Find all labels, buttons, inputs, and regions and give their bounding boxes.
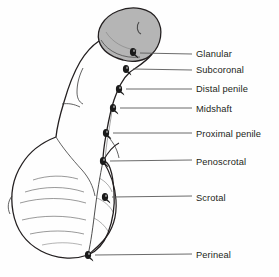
scrotum-rugae-2: [25, 188, 84, 193]
leader-line-scrotal: [112, 196, 192, 197]
scrotum-rugae-5: [30, 231, 84, 234]
meatus-marker-distal-penile[interactable]: [116, 85, 124, 96]
scrotum-left-lobe-crease: [56, 137, 95, 196]
meatus-marker-midshaft[interactable]: [110, 104, 118, 115]
meatus-marker-highlight: [133, 50, 135, 53]
scrotum-right-rugae-3: [94, 218, 108, 231]
scrotum-rugae-3: [20, 199, 86, 204]
scrotum-rugae-4: [22, 216, 86, 220]
label-perineal: Perineal: [196, 251, 231, 260]
meatus-marker-highlight: [103, 159, 105, 162]
label-proximal-penile: Proximal penile: [196, 130, 261, 139]
meatal-markers-group: [85, 48, 138, 262]
meatus-marker-highlight: [119, 87, 121, 90]
shaft-right-lower-flare: [106, 135, 119, 158]
scrotum-rugae-6: [42, 243, 82, 245]
meatus-marker-tail: [114, 110, 118, 114]
scrotum-outline: [12, 137, 114, 258]
label-scrotal: Scrotal: [196, 194, 226, 203]
meatus-marker-tail: [120, 91, 124, 95]
shaft-left-fold-tail: [62, 104, 80, 107]
diagram-figure: GlanularSubcoronalDistal penileMidshaftP…: [0, 0, 279, 277]
meatus-marker-tail: [106, 199, 110, 203]
meatus-marker-highlight: [113, 106, 115, 109]
meatus-marker-tail: [89, 257, 93, 261]
scrotum-rugae-1: [33, 176, 78, 180]
leader-line-perineal: [95, 254, 192, 255]
leader-lines-group: [95, 53, 192, 255]
label-penoscrotal: Penoscrotal: [196, 158, 246, 167]
label-subcoronal: Subcoronal: [196, 66, 244, 75]
meatus-marker-highlight: [126, 67, 128, 70]
label-midshaft: Midshaft: [196, 105, 232, 114]
meatus-marker-highlight: [88, 253, 90, 256]
scrotum-group: [8, 137, 116, 258]
scrotum-median-raphe: [88, 161, 103, 255]
meatus-marker-proximal-penile[interactable]: [103, 129, 111, 140]
shaft-left-outline: [56, 41, 99, 137]
leader-line-subcoronal: [133, 69, 192, 70]
meatus-marker-highlight: [105, 195, 107, 198]
label-distal-penile: Distal penile: [196, 85, 248, 94]
scrotum-right-rugae-1: [99, 178, 112, 192]
leader-line-penoscrotal: [110, 160, 192, 161]
meatus-marker-scrotal[interactable]: [102, 193, 110, 204]
label-glanular: Glanular: [196, 50, 232, 59]
meatus-marker-highlight: [106, 131, 108, 134]
shaft-left-fold: [77, 68, 83, 104]
